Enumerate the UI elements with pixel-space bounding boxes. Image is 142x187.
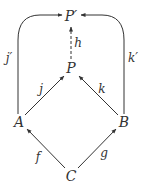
node-b: B	[119, 115, 129, 129]
arrow-j-prime	[18, 15, 62, 114]
diagram-canvas	[0, 0, 142, 187]
node-p-prime: P′	[65, 9, 78, 23]
edge-label-f: f	[36, 151, 40, 163]
node-c: C	[66, 169, 77, 183]
edge-label-j-prime: j′	[6, 52, 12, 64]
edge-label-k-prime: k′	[128, 52, 138, 64]
arrow-g	[78, 129, 116, 168]
edge-label-j: j	[39, 83, 43, 95]
arrow-j	[25, 76, 64, 115]
edge-label-h: h	[74, 37, 82, 49]
node-a: A	[14, 115, 24, 129]
node-p: P	[66, 61, 75, 75]
arrow-f	[27, 129, 65, 168]
edge-label-g: g	[100, 147, 108, 159]
edge-label-k: k	[98, 83, 105, 95]
